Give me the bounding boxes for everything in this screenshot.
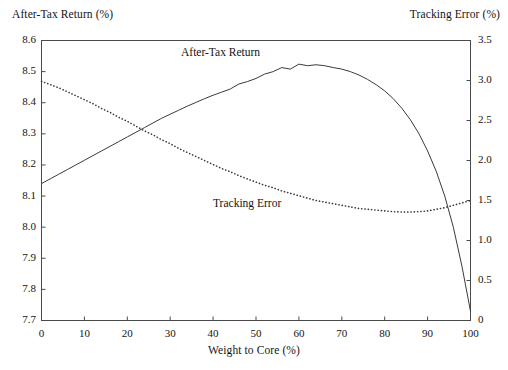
plot-area (0, 0, 508, 370)
series-path-tracking-error (42, 81, 471, 212)
data-series (42, 64, 471, 311)
chart-container: After-Tax Return (%) Tracking Error (%) … (0, 0, 508, 370)
axis-ticks (42, 72, 471, 321)
plot-frame (42, 41, 471, 321)
series-path-after-tax-return (42, 64, 471, 311)
